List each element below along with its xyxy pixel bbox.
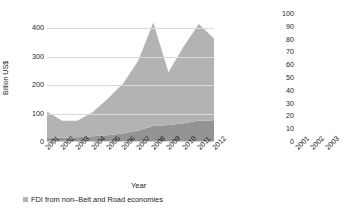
y-axis-tick-label: 40 [286,87,294,94]
y-axis-title-left: Billion US$ [1,36,10,120]
x-axis-tick-label: 2001 [294,135,310,151]
y-axis-tick-label: 50 [286,74,294,81]
figure-two-panel-fdi: Billion US$ 0100200300400 20012002200320… [0,0,347,209]
area-series [47,23,214,138]
gridline [47,114,214,115]
y-axis-tick-label: 80 [286,36,294,43]
gridline [47,85,214,86]
y-axis-tick-label: 10 [286,125,294,132]
legend-swatch-nonbri [23,197,28,202]
legend-label-nonbri: FDI from non–Belt and Road economies [31,196,163,203]
area-chart-left [47,14,214,142]
y-axis-tick-label: 100 [32,110,44,117]
chart-panel-fdi-share: Share of inward FDI flow (percent) 01020… [232,0,347,209]
y-axis-tick-label: 70 [286,48,294,55]
chart-panel-fdi-levels: Billion US$ 0100200300400 20012002200320… [0,0,232,209]
y-axis-tick-label: 90 [286,23,294,30]
legend-left: FDI from non–Belt and Road economies [23,196,163,203]
y-axis-tick-label: 20 [286,112,294,119]
x-axis-tick-label: 2002 [309,135,325,151]
y-axis-tick-label: 400 [32,24,44,31]
y-axis-tick-label: 300 [32,53,44,60]
y-axis-tick-label: 30 [286,100,294,107]
gridline [47,28,214,29]
y-axis-tick-label: 60 [286,61,294,68]
x-axis-title-left: Year [131,181,146,190]
y-axis-tick-label: 100 [282,10,294,17]
y-axis-tick-label: 200 [32,81,44,88]
plot-area-left [47,14,214,142]
gridline [47,57,214,58]
x-axis-tick-label: 2003 [324,135,340,151]
